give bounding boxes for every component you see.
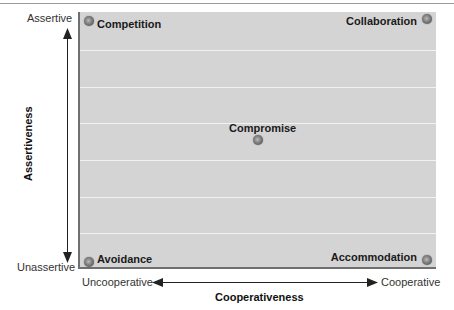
grid-line xyxy=(80,233,436,234)
accommodation-label: Accommodation xyxy=(331,251,417,263)
competition-label: Competition xyxy=(97,18,161,30)
x-axis-low-label: Uncooperative xyxy=(82,276,153,288)
avoidance-marker xyxy=(84,257,94,267)
arrow-up-icon xyxy=(63,28,72,40)
arrow-down-icon xyxy=(63,252,72,264)
x-axis-arrow-line xyxy=(160,282,370,283)
x-axis-title: Cooperativeness xyxy=(215,291,304,303)
y-axis-arrow-line xyxy=(67,38,68,254)
arrow-right-icon xyxy=(367,278,379,287)
top-border xyxy=(0,0,454,4)
grid-line xyxy=(80,50,436,51)
collaboration-marker xyxy=(422,14,432,24)
compromise-marker xyxy=(253,135,263,145)
grid-line xyxy=(80,87,436,88)
compromise-label: Compromise xyxy=(229,122,296,134)
y-axis-title: Assertiveness xyxy=(22,106,34,181)
grid-line xyxy=(80,160,436,161)
x-axis-high-label: Cooperative xyxy=(381,276,440,288)
y-axis-high-label: Assertive xyxy=(27,12,72,24)
accommodation-marker xyxy=(422,255,432,265)
collaboration-label: Collaboration xyxy=(346,15,417,27)
competition-marker xyxy=(84,16,94,26)
avoidance-label: Avoidance xyxy=(97,253,152,265)
plot-area: Competition Collaboration Compromise Avo… xyxy=(78,12,436,269)
grid-line xyxy=(80,197,436,198)
